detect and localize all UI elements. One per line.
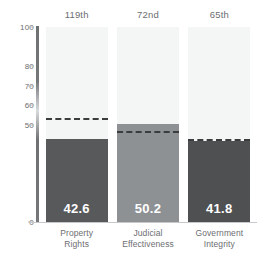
y-tick-mark xyxy=(28,105,34,106)
bars-row: 42.6 50.2 41.8 xyxy=(41,27,255,222)
rank-label: 65th xyxy=(184,7,255,23)
bar-group-judicial-effectiveness: 50.2 xyxy=(112,27,183,222)
bar[interactable]: 41.8 xyxy=(188,141,250,223)
category-label-line: Government xyxy=(184,228,255,239)
bar[interactable]: 50.2 xyxy=(117,124,179,222)
category-label-government-integrity: Government Integrity xyxy=(184,228,255,249)
benchmark-line xyxy=(188,139,250,141)
bar-group-property-rights: 42.6 xyxy=(41,27,112,222)
category-label-line: Integrity xyxy=(184,239,255,250)
y-tick-mark xyxy=(28,85,34,86)
bar-value-label: 41.8 xyxy=(188,201,250,216)
bar[interactable]: 42.6 xyxy=(46,139,108,222)
category-label-line: Rights xyxy=(41,239,112,250)
category-label-line: Effectiveness xyxy=(112,239,183,250)
bar-value-label: 42.6 xyxy=(46,201,108,216)
y-tick-mark xyxy=(28,124,34,125)
benchmark-line xyxy=(46,118,108,120)
benchmark-line xyxy=(117,131,179,133)
plot-area: 42.6 50.2 41.8 xyxy=(41,27,255,222)
rank-label: 119th xyxy=(41,7,112,23)
category-label-judicial-effectiveness: Judicial Effectiveness xyxy=(112,228,183,249)
category-label-property-rights: Property Rights xyxy=(41,228,112,249)
category-label-row: Property Rights Judicial Effectiveness G… xyxy=(41,228,255,249)
category-label-line: Property xyxy=(41,228,112,239)
x-axis-baseline xyxy=(30,222,257,223)
bar-value-label: 50.2 xyxy=(117,201,179,216)
rank-label: 72nd xyxy=(112,7,183,23)
bar-group-government-integrity: 41.8 xyxy=(184,27,255,222)
y-axis-spine xyxy=(36,26,39,223)
y-tick-mark xyxy=(28,66,34,67)
y-tick-mark xyxy=(28,27,34,28)
category-label-line: Judicial xyxy=(112,228,183,239)
rank-label-row: 119th 72nd 65th xyxy=(41,7,255,23)
bar-chart: 119th 72nd 65th 100 80 70 60 50 0 42.6 xyxy=(0,0,259,260)
